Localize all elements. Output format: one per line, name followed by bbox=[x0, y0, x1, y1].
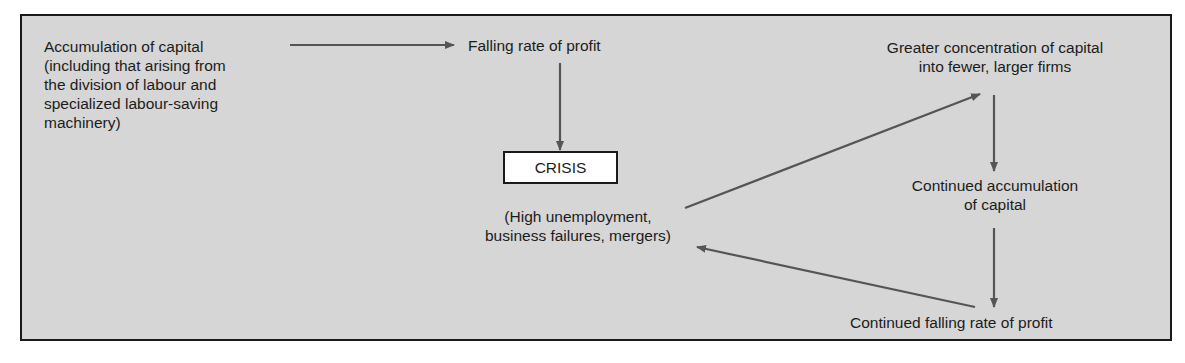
node-continued-accumulation-line2: of capital bbox=[860, 195, 1130, 214]
node-continued-falling: Continued falling rate of profit bbox=[850, 313, 1052, 332]
node-accumulation-line4: specialized labour-saving bbox=[44, 94, 226, 113]
node-continued-accumulation: Continued accumulation of capital bbox=[860, 176, 1130, 214]
node-crisis-detail-line1: (High unemployment, bbox=[458, 207, 698, 226]
node-concentration-line2: into fewer, larger firms bbox=[830, 57, 1160, 76]
node-crisis-label: CRISIS bbox=[535, 159, 587, 177]
node-falling-rate: Falling rate of profit bbox=[468, 36, 601, 55]
node-crisis: CRISIS bbox=[503, 151, 618, 184]
node-concentration: Greater concentration of capital into fe… bbox=[830, 38, 1160, 76]
node-accumulation: Accumulation of capital (including that … bbox=[44, 37, 226, 132]
node-accumulation-line2: (including that arising from bbox=[44, 56, 226, 75]
node-crisis-detail-line2: business failures, mergers) bbox=[458, 226, 698, 245]
node-accumulation-line1: Accumulation of capital bbox=[44, 37, 226, 56]
node-accumulation-line5: machinery) bbox=[44, 113, 226, 132]
node-concentration-line1: Greater concentration of capital bbox=[830, 38, 1160, 57]
node-continued-accumulation-line1: Continued accumulation bbox=[860, 176, 1130, 195]
node-crisis-detail: (High unemployment, business failures, m… bbox=[458, 207, 698, 245]
arrow-continued-falling-to-crisis bbox=[697, 247, 975, 307]
node-accumulation-line3: the division of labour and bbox=[44, 75, 226, 94]
